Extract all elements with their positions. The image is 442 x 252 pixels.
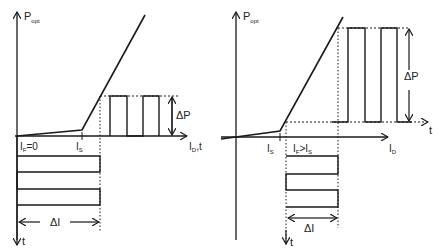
right-delta-p-label: ΔP xyxy=(404,70,419,82)
left-diagram: Popt IF=0 IS ID,t ΔP ΔI t xyxy=(15,10,202,247)
right-id-label: ID xyxy=(389,143,397,155)
left-output-square-wave xyxy=(110,96,159,136)
right-delta-i-label: ΔI xyxy=(304,222,314,234)
right-if-gt-is-label: IF>IS xyxy=(293,143,312,155)
left-li-curve xyxy=(17,15,145,136)
right-output-square-wave xyxy=(332,28,412,122)
left-current-square-wave xyxy=(17,156,100,205)
right-diagram: Popt IS IF>IS ID t ΔP ΔI t xyxy=(221,10,432,248)
right-is-label: IS xyxy=(267,143,274,155)
right-t-axis-label: t xyxy=(429,124,432,136)
right-li-curve xyxy=(221,17,343,139)
left-popt-label: Popt xyxy=(24,10,40,24)
right-popt-label: Popt xyxy=(243,10,259,24)
left-if-zero-label: IF=0 xyxy=(20,141,38,153)
left-id-t-label: ID,t xyxy=(189,141,202,153)
left-delta-i-label: ΔI xyxy=(50,216,60,228)
left-t-label: t xyxy=(22,235,25,247)
left-delta-p-label: ΔP xyxy=(176,109,191,121)
right-t-label: t xyxy=(290,236,293,248)
left-is-label: IS xyxy=(76,141,83,153)
laser-modulation-diagram: Popt IF=0 IS ID,t ΔP ΔI t xyxy=(0,0,442,252)
right-current-square-wave xyxy=(286,156,338,207)
